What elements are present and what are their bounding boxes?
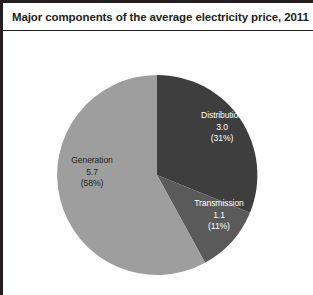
- pie-label-transmission: Transmission 1.1 (11%): [174, 198, 264, 233]
- pie-label-generation-name: Generation: [49, 155, 135, 167]
- pie-label-transmission-value: 1.1: [174, 210, 264, 222]
- figure-title-band: Major components of the average electric…: [3, 3, 313, 30]
- pie-label-distribution-percent: (31%): [179, 133, 265, 145]
- pie-label-distribution: Distribution 3.0 (31%): [179, 110, 265, 145]
- pie-label-distribution-value: 3.0: [179, 122, 265, 134]
- pie-label-generation: Generation 5.7 (58%): [49, 155, 135, 190]
- figure-container: Major components of the average electric…: [0, 0, 313, 295]
- page-title: Major components of the average electric…: [3, 11, 309, 23]
- pie-label-distribution-name: Distribution: [179, 110, 265, 122]
- pie-label-generation-percent: (58%): [49, 178, 135, 190]
- pie-label-transmission-name: Transmission: [174, 198, 264, 210]
- pie-label-generation-value: 5.7: [49, 167, 135, 179]
- pie-label-transmission-percent: (11%): [174, 221, 264, 233]
- pie-chart: Distribution 3.0 (31%) Transmission 1.1 …: [3, 31, 313, 295]
